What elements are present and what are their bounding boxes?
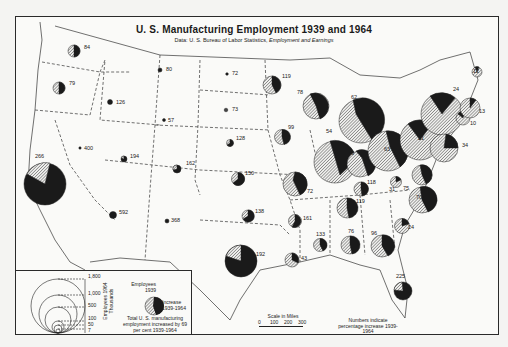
label-south-dakota: 73: [232, 106, 238, 112]
scale-tick-300: 300: [298, 319, 306, 325]
scale-line: [259, 326, 303, 327]
label-kansas: 150: [245, 170, 254, 176]
label-alabama: 76: [348, 228, 354, 234]
label-iowa: 99: [288, 124, 294, 130]
pie-massachusetts: [460, 98, 480, 118]
scale-tick-200: 200: [284, 319, 292, 325]
label-indiana: 76: [348, 150, 354, 156]
label-illinois: 54: [326, 128, 332, 134]
label-louisiana: 43: [301, 255, 307, 261]
label-washington: 84: [84, 44, 90, 50]
legend-box: 1,800 1,000 500 100 50 7 Employees 1964 …: [15, 270, 192, 335]
pie-oregon: [53, 82, 65, 94]
label-tennessee: 119: [356, 198, 365, 204]
pie-montana: [158, 68, 162, 72]
label-vermont: 24: [453, 86, 459, 92]
pie-north-carolina: [409, 186, 437, 213]
label-ohio: 63: [384, 146, 390, 152]
label-kentucky: 118: [367, 179, 376, 185]
pie-texas: [225, 245, 257, 277]
pct-labels: 84 79 126 80 57 72 73 128 400 194 162 59…: [35, 44, 485, 279]
pie-nevada: [79, 147, 81, 149]
label-mississippi: 133: [316, 231, 325, 237]
label-new-jersey: 34: [462, 142, 468, 148]
label-virginia: 75: [403, 185, 409, 191]
legend-tick-1000: 1,000: [88, 290, 101, 296]
pie-washington: [68, 45, 80, 57]
pie-colorado: [173, 165, 181, 173]
legend-employees-1939: Employees 1939: [126, 281, 156, 293]
pie-missouri: [283, 172, 307, 196]
label-oregon: 79: [69, 80, 75, 86]
pie-new-jersey: [430, 134, 458, 162]
label-idaho: 126: [116, 99, 125, 105]
label-california: 266: [35, 153, 44, 159]
legend-tick-1800: 1,800: [88, 273, 101, 279]
label-new-york: 26: [440, 102, 446, 108]
pie-virginia: [412, 165, 432, 185]
pie-new-york: [421, 93, 463, 135]
pie-new-mexico: [165, 219, 169, 223]
label-north-dakota: 72: [232, 70, 238, 76]
pie-alabama: [341, 236, 360, 254]
label-maine: 12: [473, 68, 479, 74]
label-arkansas: 161: [303, 215, 312, 221]
label-minnesota: 119: [282, 73, 291, 79]
label-florida: 225: [396, 273, 405, 279]
percentage-note-text: Numbers indicate percentage increase 193…: [338, 317, 398, 334]
label-wyoming: 57: [168, 117, 174, 123]
pie-florida: [394, 282, 412, 300]
label-oklahoma: 138: [255, 208, 264, 214]
label-texas: 192: [256, 251, 265, 257]
legend-tick-7: 7: [88, 327, 91, 333]
pie-tennessee: [337, 198, 358, 218]
legend-tick-500: 500: [88, 302, 96, 308]
pie-arizona: [110, 212, 117, 219]
pie-wisconsin: [303, 93, 329, 119]
scale-tick-100: 100: [270, 319, 278, 325]
label-pennsylvania: 21: [418, 135, 424, 141]
pie-south-dakota: [224, 108, 228, 112]
label-connecticut: 10: [470, 120, 476, 126]
pie-wyoming: [163, 119, 166, 122]
label-missouri: 72: [307, 188, 313, 194]
label-nebraska: 128: [236, 135, 245, 141]
pie-iowa: [275, 129, 291, 144]
pie-utah: [121, 156, 127, 162]
label-michigan: 62: [351, 94, 357, 100]
legend-increase: Increase 1939-1964: [162, 299, 190, 311]
pie-california: [24, 163, 66, 205]
label-west-virginia: 31: [389, 186, 395, 192]
label-massachusetts: 13: [479, 108, 485, 114]
label-wisconsin: 78: [297, 89, 303, 95]
pie-kansas: [232, 172, 245, 185]
pie-idaho: [108, 100, 113, 105]
label-georgia: 96: [371, 230, 377, 236]
label-north-carolina: 70: [416, 194, 422, 200]
label-new-mexico: 368: [171, 217, 180, 223]
pie-oklahoma: [242, 210, 254, 222]
pie-minnesota: [263, 76, 281, 94]
legend-total-note: Total U. S. manufacturing employment inc…: [120, 315, 190, 333]
pie-arkansas: [289, 215, 302, 228]
legend-size-axis-label: Employees 1964 Thousands: [102, 276, 114, 326]
percentage-note: Numbers indicate percentage increase 193…: [338, 318, 398, 335]
label-montana: 80: [166, 66, 172, 72]
pie-louisiana: [285, 253, 299, 267]
pie-georgia: [371, 235, 395, 257]
label-south-carolina: 24: [408, 224, 414, 230]
label-nevada: 400: [84, 145, 93, 151]
scale-bar: Scale in Miles 0 100 200 300: [258, 313, 308, 329]
pie-mississippi: [314, 238, 328, 251]
label-colorado: 162: [186, 160, 195, 166]
scale-tick-0: 0: [258, 319, 261, 325]
label-arizona: 592: [119, 209, 128, 215]
pie-nebraska: [227, 140, 234, 147]
label-utah: 194: [130, 153, 139, 159]
pie-north-dakota: [226, 73, 229, 76]
